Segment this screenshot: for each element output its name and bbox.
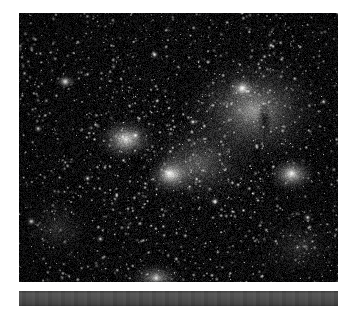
paper-margin-top xyxy=(0,0,338,13)
grayscale-caption-bar xyxy=(19,291,338,306)
astronomical-photo xyxy=(19,13,338,282)
paper-margin-left xyxy=(0,0,19,310)
star-field-canvas xyxy=(19,13,338,282)
paper-margin-bottom xyxy=(0,306,338,310)
paper-margin-gap xyxy=(0,282,338,291)
figure-page xyxy=(0,0,338,310)
